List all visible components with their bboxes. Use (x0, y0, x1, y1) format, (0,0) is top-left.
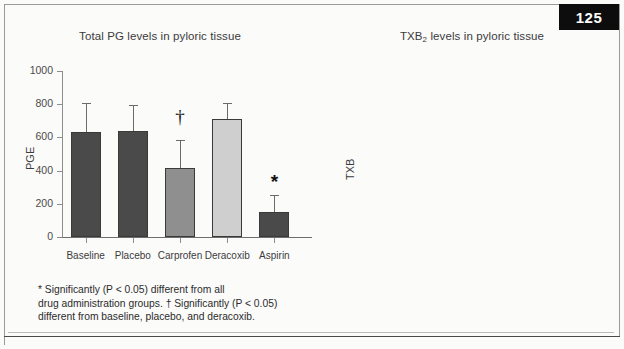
error-bar-carprofen (180, 140, 181, 168)
y-tick-mark (57, 237, 62, 238)
x-tick-label-placebo: Placebo (115, 250, 151, 261)
x-tick-mark (227, 238, 228, 243)
error-bar-baseline (86, 103, 87, 132)
error-bar-cap-baseline (82, 103, 91, 104)
y-tick-mark (57, 137, 62, 138)
bar-aspirin (259, 212, 289, 237)
chart-title-pg: Total PG levels in pyloric tissue (0, 30, 320, 42)
significance-star-aspirin: * (271, 172, 278, 191)
plot-area-pg: 02004006008001000BaselinePlaceboCarprofe… (62, 71, 298, 237)
y-tick-mark (57, 171, 62, 172)
error-bar-placebo (133, 105, 134, 131)
chart-title-txb-subscript: 2 (423, 35, 428, 44)
y-tick-label: 400 (19, 164, 53, 176)
x-tick-label-carprofen: Carprofen (158, 250, 202, 261)
error-bar-cap-deracoxib (223, 103, 232, 104)
y-tick-label: 600 (19, 130, 53, 142)
error-bar-deracoxib (227, 103, 228, 119)
y-tick-mark (57, 71, 62, 72)
bar-placebo (118, 131, 148, 237)
bar-deracoxib (212, 119, 242, 237)
y-tick-label: 0 (19, 230, 53, 242)
chart-title-txb-main: TXB (400, 30, 423, 42)
y-tick-mark (57, 204, 62, 205)
x-tick-mark (133, 238, 134, 243)
chart-panel-pg: Total PG levels in pyloric tissue PGE 02… (0, 0, 320, 349)
x-tick-mark (274, 238, 275, 243)
error-bar-aspirin (274, 195, 275, 212)
x-tick-label-baseline: Baseline (66, 250, 104, 261)
significance-dagger-carprofen: † (175, 107, 185, 126)
x-tick-mark (86, 238, 87, 243)
chart-panel-txb: TXB2 levels in pyloric tissue TXB 020040… (320, 0, 624, 349)
chart-title-txb: TXB2 levels in pyloric tissue (320, 30, 624, 42)
y-tick-label: 800 (19, 97, 53, 109)
y-tick-label: 1000 (19, 64, 53, 76)
x-tick-mark (180, 238, 181, 243)
y-axis-line (62, 71, 63, 237)
bar-baseline (71, 132, 101, 237)
error-bar-cap-aspirin (270, 195, 279, 196)
y-axis-label-txb: TXB (344, 159, 356, 180)
x-tick-label-deracoxib: Deracoxib (205, 250, 250, 261)
error-bar-cap-placebo (129, 105, 138, 106)
bar-carprofen (165, 168, 195, 237)
error-bar-cap-carprofen (176, 140, 185, 141)
scanned-page: 125 Total PG levels in pyloric tissue PG… (0, 0, 624, 349)
chart-title-txb-rest: levels in pyloric tissue (427, 30, 544, 42)
y-tick-mark (57, 104, 62, 105)
x-tick-label-aspirin: Aspirin (259, 250, 290, 261)
footnote-pg: * Significantly (P < 0.05) different fro… (38, 283, 296, 324)
y-tick-label: 200 (19, 197, 53, 209)
